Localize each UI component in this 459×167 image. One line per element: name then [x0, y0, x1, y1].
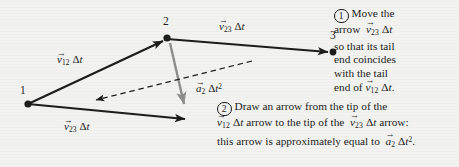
subscript-23: 23 [69, 125, 77, 134]
delta-t-factor: Δt [235, 20, 245, 32]
vector-hat-icon: → [196, 78, 202, 87]
exponent-2: 2 [218, 83, 222, 91]
dashed-construction-arrow [96, 61, 252, 100]
subscript-2: 2 [202, 87, 206, 96]
subscript-23: 23 [224, 25, 232, 34]
label-v12-delta-t: →v12 Δt [57, 54, 83, 67]
node-dot-2 [163, 34, 170, 41]
delta-t-factor: Δt [233, 116, 243, 128]
annotation-1-line-6: end of →v12 Δt. [334, 81, 396, 98]
label-a2-delta-t-squared: →a2 Δt2 [196, 83, 222, 96]
annotation-step-2: 2Draw an arrow from the tip of the →v12 … [217, 100, 415, 152]
vector-hat-icon: → [365, 76, 370, 85]
vector-v12-delta-t [28, 41, 163, 104]
annotation-2-line-1: 2Draw an arrow from the tip of the [217, 100, 415, 116]
circled-number-1: 1 [334, 9, 349, 24]
vector-symbol-v: →v [350, 116, 355, 130]
annotation-step-1: 1Move the arrow →v23 Δt so that its tail… [334, 7, 396, 97]
vector-hat-icon: → [217, 111, 222, 120]
vector-symbol-v: →v [366, 23, 371, 37]
delta-t-squared-factor: Δt2 [208, 82, 222, 94]
vector-hat-icon: → [385, 130, 391, 139]
vector-hat-icon: → [64, 116, 69, 125]
vector-hat-icon: → [350, 111, 355, 120]
delta-t-factor: Δt [366, 116, 376, 128]
vector-hat-icon: → [57, 49, 62, 58]
vector-v23-delta-t-translated [28, 104, 185, 119]
vector-hat-icon: → [219, 16, 224, 25]
node-dot-1 [24, 100, 31, 107]
vector-hat-icon: → [366, 18, 371, 27]
vector-v23-delta-t-top [167, 39, 328, 52]
subscript-12: 12 [62, 58, 70, 67]
annotation-1-line-4: end coincides [334, 53, 396, 67]
vector-symbol-v: →v [217, 116, 222, 130]
vector-symbol-a: →a [385, 135, 391, 149]
annotation-1-line-1: 1Move the [334, 7, 396, 23]
subscript-2: 2 [391, 140, 395, 149]
delta-t-factor: Δt [382, 23, 392, 35]
subscript-23: 23 [355, 121, 363, 130]
subscript-12: 12 [222, 121, 230, 130]
subscript-12: 12 [370, 86, 378, 95]
exponent-2: 2 [408, 135, 412, 144]
delta-t-factor: Δt [73, 53, 83, 65]
vector-symbol-v: →v [365, 81, 370, 95]
vector-symbol-v: →v [64, 121, 69, 132]
node-label-1: 1 [20, 85, 26, 97]
annotation-1-line-2: arrow →v23 Δt [334, 23, 396, 40]
label-v23-delta-t-top: →v23 Δt [219, 21, 245, 34]
node-label-2: 2 [163, 16, 169, 28]
figure-canvas: 1 2 3 →v12 Δt →v23 Δt →v23 Δt →a2 Δt2 1M… [0, 0, 459, 167]
vector-symbol-v: →v [219, 21, 224, 32]
delta-t-factor: Δt [80, 120, 90, 132]
delta-t-squared-factor: Δt2 [398, 135, 412, 147]
annotation-2-line-3: this arrow is approximately equal to →a2… [217, 133, 415, 152]
delta-t-factor: Δt [381, 81, 391, 93]
vector-a2-delta-t-squared [170, 43, 184, 104]
annotation-1-line-3: so that its tail [334, 40, 396, 54]
vector-symbol-v: →v [57, 54, 62, 65]
vector-symbol-a: →a [196, 83, 202, 94]
subscript-23: 23 [371, 28, 379, 37]
label-v23-delta-t-bottom: →v23 Δt [64, 121, 90, 134]
